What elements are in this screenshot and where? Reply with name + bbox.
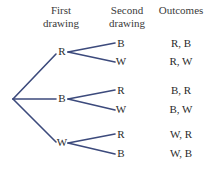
outcome-label-2: R, W (152, 56, 210, 67)
tree-node-level2-R-B: B (114, 38, 128, 49)
branch-W-to-R (68, 134, 115, 143)
column-header-first-drawing-line2: drawing (30, 17, 92, 30)
column-header-second-drawing-line2: drawing (96, 17, 158, 30)
column-header-outcomes-line1: Outcomes (152, 4, 210, 17)
branch-W-to-B (68, 143, 115, 154)
tree-node-level1-B: B (55, 93, 69, 104)
tree-node-level2-B-W: W (114, 104, 128, 115)
branch-B-to-W (68, 99, 115, 110)
branch-B-to-R (68, 90, 115, 99)
column-header-outcomes: Outcomes (152, 4, 210, 17)
tree-node-level2-R-W: W (114, 56, 128, 67)
column-header-first-drawing: First drawing (30, 4, 92, 29)
outcome-label-5: W, R (152, 129, 210, 140)
column-header-second-drawing: Second drawing (96, 4, 158, 29)
probability-tree-figure: First drawing Second drawing Outcomes R … (0, 0, 212, 172)
tree-node-level1-W: W (55, 137, 69, 148)
column-header-second-drawing-line1: Second (96, 4, 158, 17)
tree-node-level1-R: R (55, 46, 69, 57)
outcome-label-1: R, B (152, 38, 210, 49)
tree-node-level2-B-R: R (114, 85, 128, 96)
branch-R-to-W (68, 52, 115, 62)
branch-root-to-W (13, 99, 56, 142)
outcome-label-6: W, B (152, 148, 210, 159)
tree-node-level2-W-R: R (114, 129, 128, 140)
branch-root-to-R (13, 54, 56, 99)
column-header-first-drawing-line1: First (30, 4, 92, 17)
outcome-label-3: B, R (152, 85, 210, 96)
tree-node-level2-W-B: B (114, 148, 128, 159)
outcome-label-4: B, W (152, 104, 210, 115)
branch-R-to-B (68, 43, 115, 52)
